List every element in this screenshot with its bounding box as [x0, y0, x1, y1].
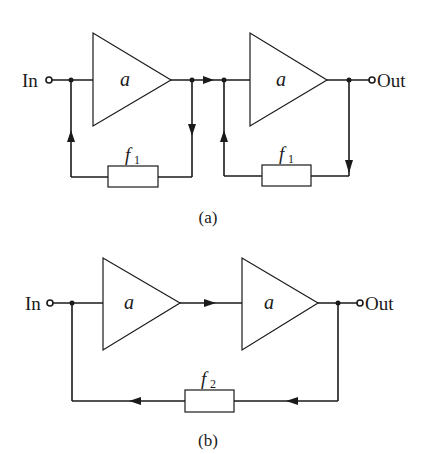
amplifier-b1-icon	[103, 258, 180, 350]
signal-arrow-icon	[203, 76, 214, 84]
amplifier-b2-icon	[242, 258, 318, 350]
output-terminal-icon	[369, 77, 375, 83]
input-label-b: In	[25, 293, 41, 314]
input-terminal-icon	[47, 300, 53, 306]
amplifier-a2-icon	[250, 33, 327, 126]
input-label: In	[22, 70, 38, 91]
feedback-block-f2-icon	[185, 390, 234, 412]
f1b-subscript: 1	[288, 152, 294, 166]
feedback-block-f1b-icon	[262, 165, 311, 186]
feedback-amplifier-figure: In a a Out f 1 f 1 (a) In a a Out f 2 (b…	[0, 0, 430, 454]
f2-label: f	[201, 368, 209, 389]
up-arrow-icon	[67, 130, 75, 142]
left-arrow-icon	[286, 397, 298, 405]
amp1-label-b: a	[124, 291, 134, 313]
down-arrow-icon	[345, 160, 353, 173]
amp1-label: a	[120, 68, 130, 90]
circuit-diagram: In a a Out f 1 f 1 (a) In a a Out f 2 (b…	[0, 0, 430, 454]
down-arrow-icon	[188, 124, 196, 136]
amp2-label-b: a	[264, 291, 274, 313]
f1-subscript: 1	[134, 153, 140, 167]
f2-subscript: 2	[210, 377, 216, 391]
output-label-b: Out	[365, 293, 394, 314]
caption-a: (a)	[199, 208, 218, 227]
output-label: Out	[377, 70, 406, 91]
caption-b: (b)	[198, 431, 218, 450]
f1-label: f	[125, 144, 133, 165]
input-terminal-icon	[46, 77, 52, 83]
amplifier-a1-icon	[93, 33, 171, 126]
diagram-a	[46, 33, 375, 187]
output-terminal-icon	[357, 300, 363, 306]
f1b-label: f	[279, 143, 287, 164]
amp2-label: a	[276, 68, 286, 90]
up-arrow-icon	[220, 130, 228, 142]
left-arrow-icon	[129, 397, 141, 405]
signal-arrow-icon	[204, 299, 216, 307]
feedback-block-f1-icon	[108, 166, 158, 187]
